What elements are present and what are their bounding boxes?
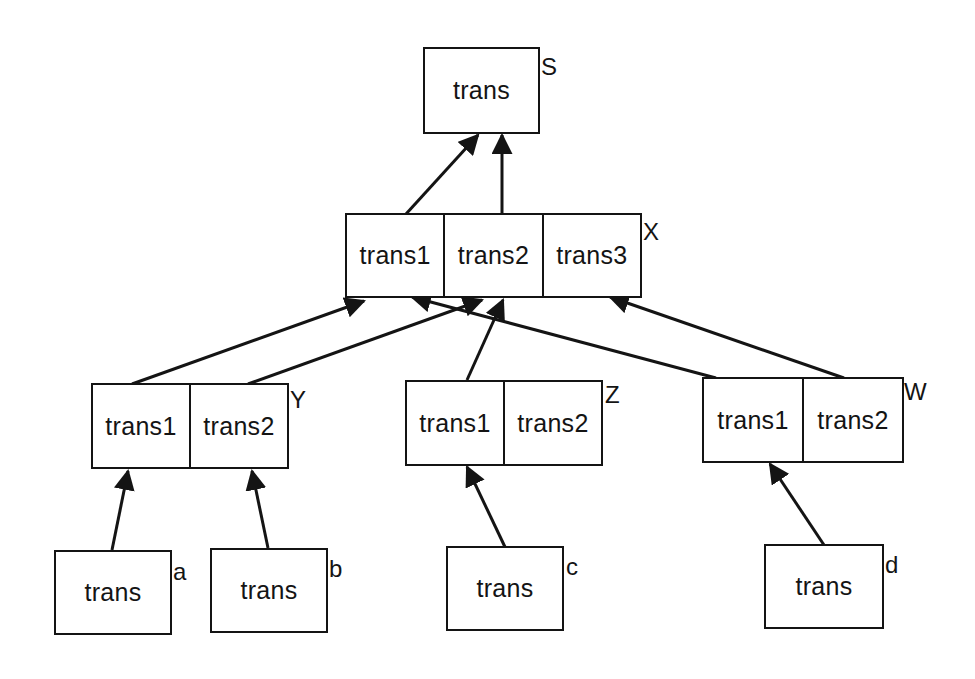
node-z-cell-trans2: trans2 — [503, 382, 601, 464]
edge-w-trans2-to-x-trans3 — [610, 297, 844, 378]
edge-a-to-y-trans1 — [112, 471, 128, 550]
node-a: trans — [54, 550, 172, 635]
edge-d-to-w-trans1 — [770, 464, 824, 545]
node-y-label: Y — [290, 388, 306, 412]
node-x: trans1 trans2 trans3 — [345, 213, 642, 298]
node-b-label: b — [329, 557, 342, 581]
node-s: trans — [423, 47, 540, 134]
node-z: trans1 trans2 — [405, 380, 603, 466]
node-s-label: S — [541, 55, 557, 79]
node-w-cell-trans1: trans1 — [704, 379, 802, 461]
node-y-cell-trans1: trans1 — [93, 385, 189, 467]
node-a-label: a — [173, 560, 186, 584]
node-x-cell-trans2: trans2 — [443, 215, 541, 296]
node-b-cell-trans: trans — [212, 550, 326, 631]
node-x-cell-trans1: trans1 — [347, 215, 443, 296]
edge-x-trans1-to-s — [406, 135, 478, 214]
edge-b-to-y-trans2 — [252, 471, 268, 548]
node-w: trans1 trans2 — [702, 377, 904, 463]
node-a-cell-trans: trans — [56, 552, 170, 633]
node-c-cell-trans: trans — [448, 548, 562, 629]
node-b: trans — [210, 548, 328, 633]
tree-diagram: trans S trans1 trans2 trans3 X trans1 tr… — [0, 0, 975, 679]
node-s-cell-trans: trans — [425, 49, 538, 132]
node-y: trans1 trans2 — [91, 383, 289, 469]
node-w-cell-trans2: trans2 — [802, 379, 902, 461]
node-c: trans — [446, 546, 564, 631]
node-x-label: X — [643, 220, 659, 244]
edge-y-trans1-to-x-trans1 — [132, 301, 364, 384]
node-c-label: c — [566, 555, 578, 579]
edge-w-trans1-to-x-trans1 — [412, 297, 716, 378]
node-d-cell-trans: trans — [766, 546, 882, 627]
node-x-cell-trans3: trans3 — [542, 215, 640, 296]
node-d-label: d — [885, 553, 898, 577]
node-z-label: Z — [605, 383, 620, 407]
node-w-label: W — [904, 380, 927, 404]
edge-c-to-z-trans1 — [467, 467, 505, 547]
node-d: trans — [764, 544, 884, 629]
node-y-cell-trans2: trans2 — [189, 385, 287, 467]
edge-y-trans2-to-x-trans2 — [248, 300, 482, 384]
node-z-cell-trans1: trans1 — [407, 382, 503, 464]
